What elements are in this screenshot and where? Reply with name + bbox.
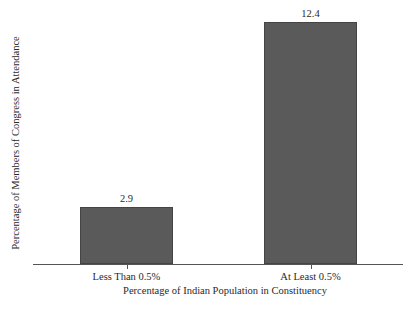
x-tick xyxy=(311,265,312,269)
bar-value-label: 12.4 xyxy=(281,8,341,19)
y-axis-label: Percentage of Members of Congress in Att… xyxy=(10,36,21,249)
bar-at-least-0-5 xyxy=(264,22,357,264)
x-axis-label: Percentage of Indian Population in Const… xyxy=(0,285,420,296)
x-axis-line xyxy=(33,264,403,265)
bar-value-label: 2.9 xyxy=(97,193,157,204)
x-tick xyxy=(127,265,128,269)
bar-chart: Percentage of Members of Congress in Att… xyxy=(0,0,420,312)
x-tick-label: At Least 0.5% xyxy=(241,271,381,282)
x-tick-label: Less Than 0.5% xyxy=(57,271,197,282)
bar-less-than-0-5 xyxy=(80,207,173,264)
